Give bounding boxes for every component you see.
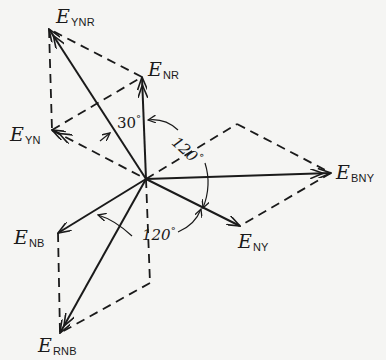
phasor-diagram: EYNR ENR EYN EBNY ENY ENB ERNB 30° 120° …	[0, 0, 386, 360]
dashed-nb-to-rnb	[58, 233, 60, 333]
label-e-ynr: EYNR	[56, 7, 95, 28]
label-e-rnb-sub: RNB	[53, 345, 77, 357]
label-e-nr-sub: NR	[163, 69, 180, 81]
label-e-bny-main: E	[336, 161, 350, 183]
label-e-ny: ENY	[238, 232, 269, 253]
angle-120-lower-unit: °	[171, 225, 176, 236]
label-e-yn: EYN	[10, 125, 41, 146]
dashed-ynr-top	[49, 29, 142, 77]
angle-120-lower-value: 120	[142, 226, 171, 244]
angle-label-120-lower: 120°	[142, 226, 176, 243]
label-e-rnb-main: E	[38, 334, 52, 356]
label-e-rnb: ERNB	[38, 336, 77, 357]
label-e-ynr-main: E	[56, 5, 70, 27]
phasor-e-ny	[146, 179, 240, 226]
phasor-e-rnb	[60, 179, 146, 333]
angle-label-30: 30°	[117, 114, 141, 131]
phasor-diagram-graphics	[0, 0, 386, 360]
label-e-yn-main: E	[10, 123, 24, 145]
dashed-bny-to-ny	[240, 173, 331, 226]
label-e-nb-sub: NB	[29, 237, 45, 249]
label-e-nb-main: E	[14, 226, 28, 248]
label-e-bny-sub: BNY	[351, 172, 375, 184]
arc-120-upper-to-ny	[203, 163, 208, 208]
arc-30-left-arrow	[100, 133, 110, 141]
label-e-bny: EBNY	[336, 163, 374, 184]
label-e-ny-sub: NY	[253, 241, 269, 253]
dashed-ynr-left	[49, 29, 52, 130]
angle-30-unit: °	[136, 113, 141, 124]
phasors	[49, 29, 331, 333]
dashed-yn-to-origin	[52, 130, 146, 179]
label-e-nr-main: E	[148, 58, 162, 80]
phasor-e-ynr	[49, 29, 146, 179]
arc-120-lower-to-ny	[178, 209, 201, 232]
label-e-nr: ENR	[148, 60, 179, 81]
label-e-nb: ENB	[14, 228, 45, 249]
phasor-e-nb	[58, 179, 146, 233]
phasor-e-yn-head	[52, 130, 60, 134]
arc-120-upper-to-nr	[148, 120, 178, 130]
dashed-upper-to-bny	[237, 124, 331, 173]
label-e-ny-main: E	[238, 230, 252, 252]
label-e-ynr-sub: YNR	[71, 16, 95, 28]
construction-lines	[49, 29, 331, 333]
label-e-yn-sub: YN	[25, 134, 41, 146]
angle-30-value: 30	[117, 114, 136, 132]
phasor-e-nr	[142, 77, 146, 179]
phasor-e-bny	[146, 173, 331, 179]
